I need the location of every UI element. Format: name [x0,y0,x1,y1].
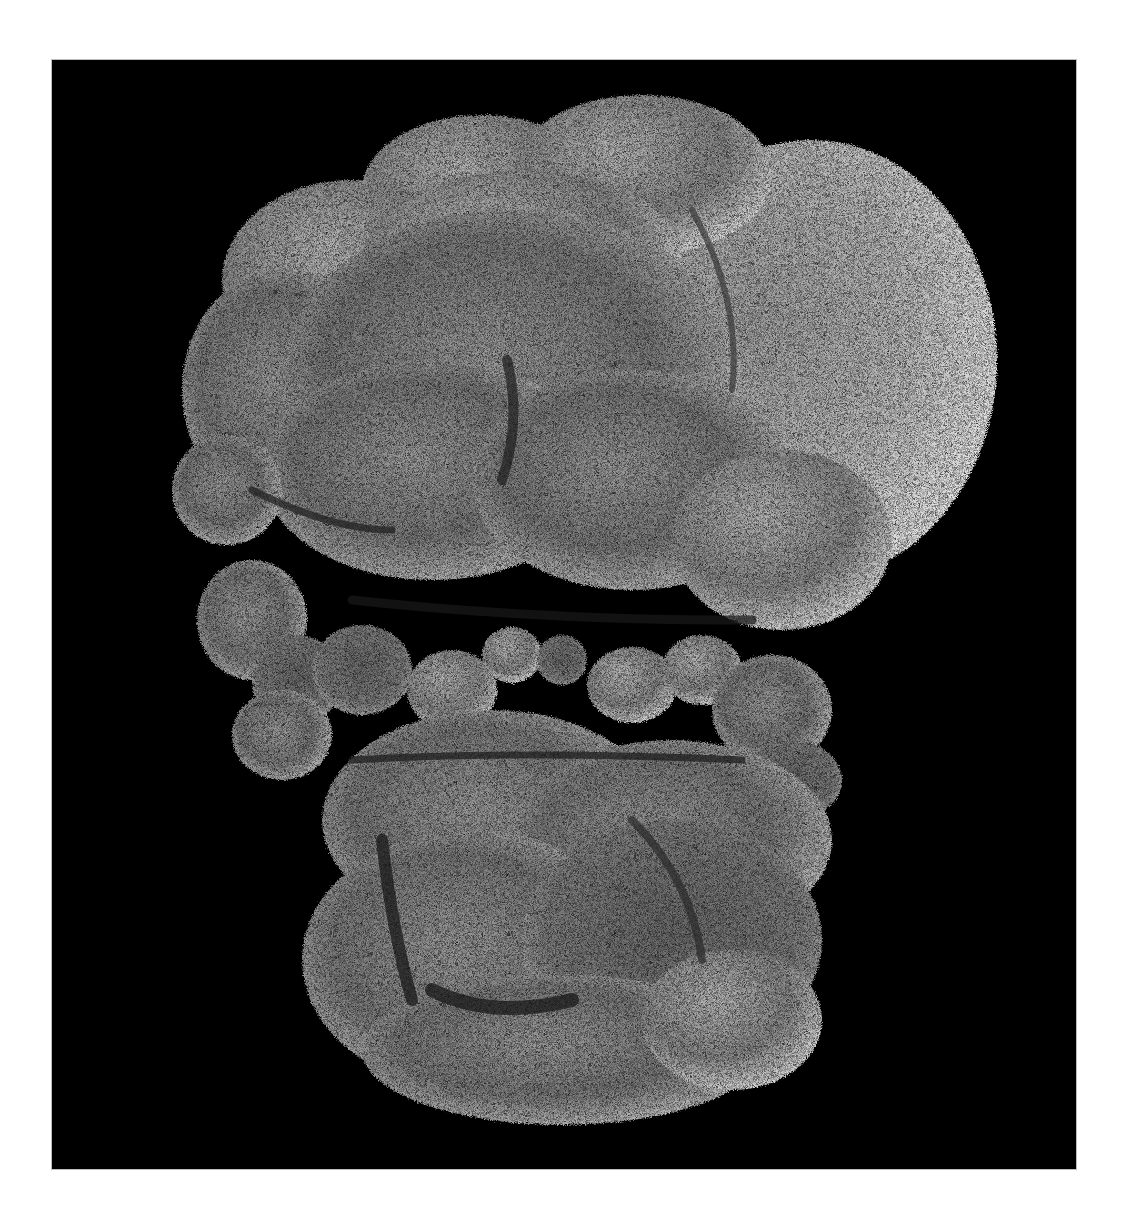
small-sphere [482,627,542,683]
cell-cluster [172,95,997,1125]
small-sphere [312,625,412,715]
micrograph-frame [52,60,1076,1169]
right-cell [672,450,892,630]
specimen-image [52,60,1076,1169]
small-sphere [232,690,332,780]
left-cell [172,435,282,545]
lower-cell [642,950,822,1090]
small-sphere [587,647,677,723]
small-sphere [537,635,587,685]
